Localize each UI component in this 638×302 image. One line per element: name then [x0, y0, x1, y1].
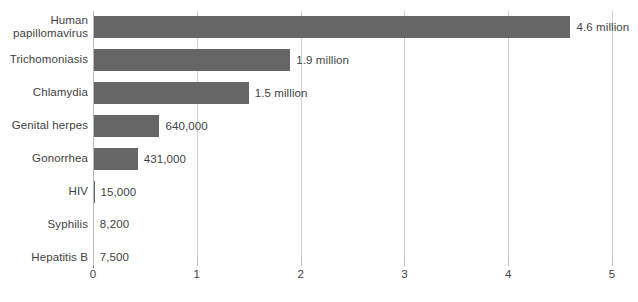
x-axis: 012345 [0, 257, 638, 297]
category-label-line: Human [0, 14, 88, 27]
bar[interactable] [93, 115, 159, 137]
bar[interactable] [93, 148, 138, 170]
bar[interactable] [93, 82, 249, 104]
x-tick-mark [508, 257, 509, 266]
x-tick-mark [93, 257, 94, 266]
plot-area: 4.6 million1.9 million1.5 million640,000… [93, 11, 612, 263]
bar-value-label: 8,200 [100, 218, 129, 230]
bar-row[interactable]: 8,200 [93, 213, 612, 235]
bar-value-label: 1.5 million [255, 87, 308, 99]
bar-value-label: 4.6 million [576, 21, 629, 33]
category-label-line: papillomavirus [0, 27, 88, 40]
y-axis-line [93, 11, 94, 263]
x-tick-mark [612, 257, 613, 266]
bar-row[interactable]: 1.5 million [93, 82, 612, 104]
x-tick-mark [404, 257, 405, 266]
bar-row[interactable]: 1.9 million [93, 49, 612, 71]
x-tick-label: 5 [609, 268, 615, 280]
bar-row[interactable]: 15,000 [93, 181, 612, 203]
x-tick-label: 4 [505, 268, 511, 280]
x-tick-label: 3 [401, 268, 407, 280]
x-tick-label: 0 [90, 268, 96, 280]
category-label: Humanpapillomavirus [0, 14, 88, 40]
bar-chart: 4.6 million1.9 million1.5 million640,000… [0, 0, 638, 302]
x-tick-mark [301, 257, 302, 266]
category-label: Gonorrhea [0, 152, 88, 165]
bar[interactable] [93, 49, 290, 71]
x-tick-label: 1 [194, 268, 200, 280]
gridline-5 [612, 11, 613, 263]
bar-row[interactable]: 431,000 [93, 148, 612, 170]
x-tick-mark [197, 257, 198, 266]
category-label: Chlamydia [0, 86, 88, 99]
category-label: Trichomoniasis [0, 53, 88, 66]
bar-value-label: 15,000 [101, 186, 137, 198]
category-axis-labels: HumanpapillomavirusTrichomoniasisChlamyd… [0, 11, 88, 263]
bar-row[interactable]: 640,000 [93, 115, 612, 137]
category-label: Genital herpes [0, 119, 88, 132]
bar-value-label: 1.9 million [296, 54, 349, 66]
bar-row[interactable]: 4.6 million [93, 16, 612, 38]
category-label: HIV [0, 185, 88, 198]
bar[interactable] [93, 16, 570, 38]
category-label: Syphilis [0, 218, 88, 231]
bar-value-label: 640,000 [165, 120, 207, 132]
bar-value-label: 431,000 [144, 153, 186, 165]
x-tick-label: 2 [297, 268, 303, 280]
